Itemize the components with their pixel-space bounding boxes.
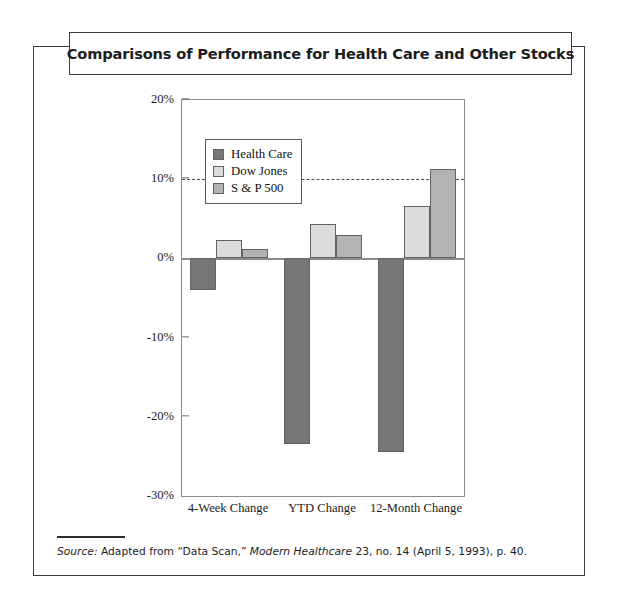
y-axis-tick-label: -30% [147, 488, 174, 503]
title-banner: Comparisons of Performance for Health Ca… [69, 32, 572, 75]
source-part-3: 23, no. 14 (April 5, 1993), p. 40. [352, 545, 527, 558]
page-title: Comparisons of Performance for Health Ca… [67, 45, 574, 62]
y-axis-tick-mark [182, 415, 189, 416]
bar-health-care-4-week-change [190, 258, 216, 290]
legend-swatch-health-care [213, 149, 224, 160]
legend-swatch-dow-jones [213, 166, 224, 177]
bar-dow-jones-4-week-change [216, 240, 242, 258]
bar-s-p-500-4-week-change [242, 249, 268, 259]
bar-dow-jones-12-month-change [404, 206, 430, 258]
bar-s-p-500-ytd-change [336, 235, 362, 258]
zero-baseline [182, 258, 464, 259]
y-axis-tick-mark [182, 178, 189, 179]
x-axis-category-label: 12-Month Change [370, 501, 462, 516]
legend-label-health-care: Health Care [231, 147, 292, 162]
source-publication: Modern Healthcare [250, 545, 352, 558]
y-axis-tick-mark [182, 336, 189, 337]
y-axis-tick-label: 10% [151, 171, 174, 186]
chart-legend: Health Care Dow Jones S & P 500 [205, 139, 302, 204]
legend-label-dow-jones: Dow Jones [231, 164, 288, 179]
legend-label-sp-500: S & P 500 [231, 181, 284, 196]
legend-item-health-care: Health Care [213, 146, 292, 163]
figure-container: Comparisons of Performance for Health Ca… [0, 0, 618, 605]
source-label: Source: [57, 545, 98, 558]
bar-health-care-12-month-change [378, 258, 404, 451]
y-axis-tick-label: -20% [147, 408, 174, 423]
x-axis-category-label: 4-Week Change [188, 501, 268, 516]
y-axis-tick-label: -10% [147, 329, 174, 344]
legend-item-dow-jones: Dow Jones [213, 163, 292, 180]
bar-s-p-500-12-month-change [430, 169, 456, 258]
x-axis-category-label: YTD Change [288, 501, 356, 516]
source-note: Source: Adapted from “Data Scan,” Modern… [57, 545, 557, 558]
legend-item-sp-500: S & P 500 [213, 180, 292, 197]
legend-swatch-sp-500 [213, 183, 224, 194]
source-part-1: Adapted from “Data Scan,” [98, 545, 250, 558]
bar-dow-jones-ytd-change [310, 224, 336, 259]
y-axis-tick-mark [182, 98, 189, 99]
source-rule [57, 536, 125, 538]
y-axis-tick-label: 0% [157, 250, 174, 265]
bar-health-care-ytd-change [284, 258, 310, 443]
y-axis-tick-label: 20% [151, 92, 174, 107]
